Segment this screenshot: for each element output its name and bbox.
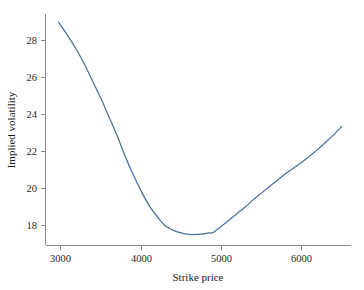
y-tick-label-18: 18	[27, 220, 38, 231]
y-tick-label-24: 24	[27, 109, 38, 120]
x-tick-label-6000: 6000	[291, 253, 312, 264]
x-tick-label-5000: 5000	[211, 253, 232, 264]
chart-figure: 18 20 22 24 26 28 3000 4000 5000 6000 St…	[0, 0, 364, 290]
y-tick-label-26: 26	[27, 72, 38, 83]
x-tick-label-3000: 3000	[50, 253, 71, 264]
y-tick-label-20: 20	[27, 183, 38, 194]
volatility-smile-chart: 18 20 22 24 26 28 3000 4000 5000 6000 St…	[0, 0, 364, 290]
x-tick-label-4000: 4000	[131, 253, 152, 264]
y-tick-label-22: 22	[27, 146, 38, 157]
chart-background	[0, 0, 364, 290]
x-axis-title: Strike price	[172, 271, 223, 283]
y-tick-label-28: 28	[27, 35, 38, 46]
y-axis-title: Implied volatility	[5, 91, 17, 168]
